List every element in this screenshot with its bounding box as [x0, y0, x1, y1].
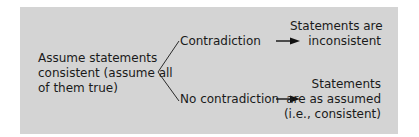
- outcome-inconsistent: Statements are inconsistent: [290, 19, 381, 49]
- condition-no-contradiction: No contradiction: [180, 92, 279, 107]
- outcome-line: inconsistent: [290, 34, 381, 49]
- root-line: Assume statements: [38, 51, 173, 66]
- outcome-line: Statements: [280, 77, 381, 92]
- outcome-line: are as assumed: [280, 92, 381, 107]
- condition-contradiction: Contradiction: [180, 34, 261, 49]
- root-line: of them true): [38, 81, 173, 96]
- root-line: consistent (assume all: [38, 66, 173, 81]
- outcome-line: Statements are: [290, 19, 381, 34]
- root-node: Assume statements consistent (assume all…: [38, 51, 173, 96]
- outcome-consistent: Statements are as assumed (i.e., consist…: [280, 77, 381, 122]
- outcome-line: (i.e., consistent): [280, 107, 381, 122]
